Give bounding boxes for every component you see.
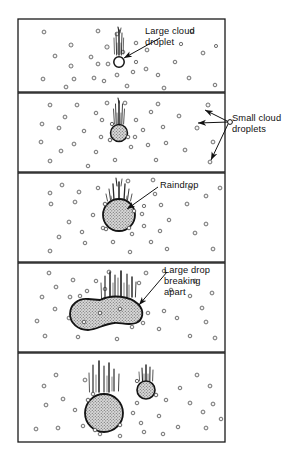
- panel-5-small-droplets: [34, 373, 223, 438]
- panel-5-small-drop: [137, 381, 155, 399]
- panel-1-large-cloud-droplet: [114, 57, 124, 67]
- panel-4-motion-trail: [101, 271, 136, 300]
- panel-4-leader-line: [139, 272, 167, 305]
- raindrop-growth-figure: [0, 0, 289, 452]
- panel-5-small-drop-trail: [139, 365, 153, 381]
- label-large-cloud-droplet: Large cloud droplet: [145, 26, 195, 48]
- panel-2-motion-trail: [114, 98, 125, 124]
- panel-2-growing-droplet: [111, 125, 128, 142]
- panel-5-large-drop-trail: [89, 361, 119, 392]
- panel-5-content: [34, 361, 223, 438]
- label-small-cloud-droplets: Small cloud droplets: [232, 113, 281, 135]
- panel-1-small-droplets: [41, 29, 231, 90]
- panel-5-frame: [18, 353, 225, 442]
- panel-1-content: [41, 27, 231, 90]
- panel-2-content: [39, 98, 215, 168]
- label-raindrop: Raindrop: [160, 180, 199, 191]
- panel-5-large-drop: [85, 394, 123, 432]
- label-large-drop-breaking-apart: Large drop breaking apart: [164, 265, 210, 298]
